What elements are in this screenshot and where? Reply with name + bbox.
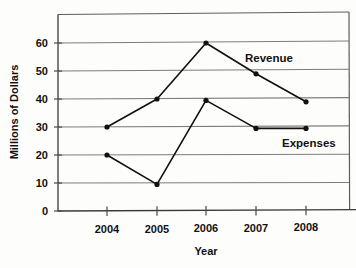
y-tick-label-0: 0: [42, 205, 48, 217]
gridline-40: [58, 98, 349, 99]
gridlines: [58, 41, 349, 183]
gridline-10: [58, 183, 349, 184]
expenses-point-2005: [154, 182, 159, 187]
x-axis-line: [58, 210, 356, 211]
revenue-point-2007: [253, 71, 258, 76]
chart-svg: 60 50 40 30 20 10 0 2004 2005 2006 2007 …: [0, 0, 356, 268]
line-chart: 60 50 40 30 20 10 0 2004 2005 2006 2007 …: [0, 0, 356, 268]
x-tick-label-2008: 2008: [294, 221, 318, 233]
y-tick-label-10: 10: [36, 177, 48, 189]
x-tick-label-2004: 2004: [95, 223, 120, 235]
expenses-point-2004: [104, 152, 109, 157]
x-tick-label-2007: 2007: [244, 222, 268, 234]
x-tick-label-2005: 2005: [145, 223, 169, 235]
y-tick-label-60: 60: [36, 37, 48, 49]
revenue-point-2004: [104, 124, 109, 129]
frame-right: [349, 12, 350, 209]
gridline-50: [58, 69, 349, 71]
frame-top: [58, 12, 349, 15]
y-tick-label-30: 30: [36, 121, 48, 133]
y-tick-label-40: 40: [36, 93, 48, 105]
x-tick-label-2006: 2006: [194, 222, 218, 234]
y-axis-title: Millions of Dollars: [8, 65, 20, 160]
expenses-point-2008: [303, 126, 308, 131]
expenses-point-2007: [253, 126, 258, 131]
revenue-point-2006: [203, 40, 208, 45]
expenses-line: [107, 100, 306, 184]
revenue-point-2008: [303, 99, 308, 104]
x-tick-labels: 2004 2005 2006 2007 2008: [95, 221, 318, 235]
y-tick-labels: 60 50 40 30 20 10 0: [36, 37, 48, 217]
expenses-point-2006: [203, 98, 208, 103]
x-axis-title: Year: [194, 245, 218, 257]
gridline-20: [58, 154, 349, 155]
y-tick-label-50: 50: [36, 65, 48, 77]
y-tick-label-20: 20: [36, 149, 48, 161]
revenue-point-2005: [154, 96, 159, 101]
series-label-revenue: Revenue: [245, 52, 293, 64]
series-label-expenses: Expenses: [282, 137, 336, 149]
